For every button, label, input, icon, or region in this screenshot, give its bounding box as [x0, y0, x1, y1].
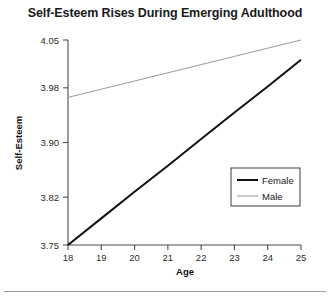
legend: Female Male	[231, 168, 300, 206]
legend-label-female: Female	[262, 175, 294, 186]
y-axis-title: Self-Esteem	[13, 116, 24, 170]
series-line-female	[68, 60, 301, 245]
bottom-divider	[4, 291, 326, 292]
x-tick-label: 18	[63, 252, 74, 263]
x-axis-title: Age	[176, 266, 194, 277]
y-tick-label: 4.05	[41, 35, 60, 46]
x-tick-label: 25	[296, 252, 307, 263]
x-tick-label: 24	[262, 252, 273, 263]
y-tick-label: 3.90	[41, 137, 60, 148]
x-tick-label: 23	[229, 252, 240, 263]
y-tick-label: 3.75	[41, 240, 60, 251]
chart-figure: Self-Esteem Rises During Emerging Adulth…	[0, 0, 330, 303]
x-tick-label: 19	[96, 252, 107, 263]
y-tick-label: 3.82	[41, 192, 60, 203]
y-tick-label: 3.98	[41, 82, 60, 93]
x-tick-label: 21	[163, 252, 174, 263]
x-tick-label: 22	[196, 252, 207, 263]
x-tick-label: 20	[129, 252, 140, 263]
line-chart-plot: 3.753.823.903.984.05 1819202122232425 Ag…	[0, 0, 330, 303]
series-lines	[68, 40, 301, 245]
x-axis-ticks: 1819202122232425	[63, 245, 307, 263]
y-axis-ticks: 3.753.823.903.984.05	[41, 35, 69, 251]
legend-label-male: Male	[262, 191, 283, 202]
